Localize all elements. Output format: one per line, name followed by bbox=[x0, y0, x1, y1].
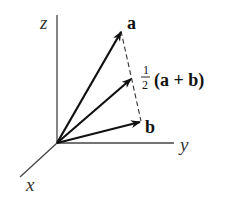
midpoint-expression: (a + b) bbox=[154, 70, 204, 91]
y-axis-label: y bbox=[178, 134, 189, 155]
dashed-connector bbox=[121, 31, 141, 121]
vector-b-label: b bbox=[145, 117, 155, 137]
midpoint-label: 1 2 (a + b) bbox=[141, 63, 204, 92]
z-axis-label: z bbox=[39, 12, 48, 33]
fraction-numerator: 1 bbox=[143, 63, 149, 77]
x-axis bbox=[20, 143, 57, 177]
vector-a-label: a bbox=[127, 13, 136, 33]
x-axis-label: x bbox=[25, 174, 35, 195]
vector-a bbox=[57, 32, 121, 143]
vector-diagram: z y x a b 1 2 (a + b) bbox=[0, 0, 234, 203]
fraction-denominator: 2 bbox=[142, 78, 148, 92]
